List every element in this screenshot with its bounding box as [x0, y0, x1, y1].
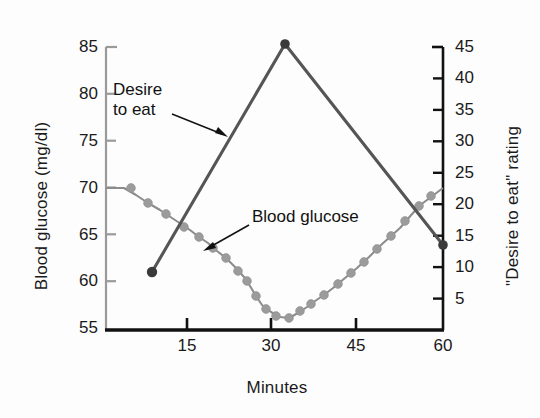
- ytick-right-20: 20: [455, 194, 495, 214]
- bottom-tick-marks: [187, 318, 356, 330]
- annotation-desire-to-eat: Desire to eat: [113, 80, 162, 119]
- annotation-arrow-desire: [172, 114, 228, 137]
- y-axis-left-title: Blood glucose (mg/dl): [32, 86, 52, 326]
- series-blood-glucose: [106, 184, 443, 323]
- ytick-right-45: 45: [455, 37, 495, 57]
- ytick-left-80: 80: [58, 84, 98, 104]
- xtick-60: 60: [418, 336, 468, 356]
- ytick-right-25: 25: [455, 163, 495, 183]
- ytick-left-55: 55: [58, 318, 98, 338]
- annotation-arrow-glucose: [203, 225, 249, 251]
- ytick-right-10: 10: [455, 257, 495, 277]
- x-axis-title: Minutes: [212, 378, 342, 398]
- ytick-right-40: 40: [455, 68, 495, 88]
- ytick-left-75: 75: [58, 131, 98, 151]
- ytick-left-60: 60: [58, 271, 98, 291]
- series-desire-to-eat: [147, 39, 448, 277]
- chart-figure: 85 80 75 70 65 60 55 45 40 35 30 25 20 1…: [0, 0, 540, 418]
- annotation-desire-line2: to eat: [113, 100, 162, 120]
- annotation-blood-glucose: Blood glucose: [252, 207, 359, 227]
- xtick-15: 15: [162, 336, 212, 356]
- ytick-left-65: 65: [58, 225, 98, 245]
- xtick-30: 30: [246, 336, 296, 356]
- ytick-right-5: 5: [455, 289, 495, 309]
- ytick-right-35: 35: [455, 100, 495, 120]
- ytick-right-30: 30: [455, 131, 495, 151]
- ytick-left-70: 70: [58, 178, 98, 198]
- xtick-45: 45: [331, 336, 381, 356]
- ytick-left-85: 85: [58, 37, 98, 57]
- y-axis-right-title: "Desire to eat" rating: [503, 86, 523, 326]
- ytick-right-15: 15: [455, 226, 495, 246]
- annotation-desire-line1: Desire: [113, 80, 162, 100]
